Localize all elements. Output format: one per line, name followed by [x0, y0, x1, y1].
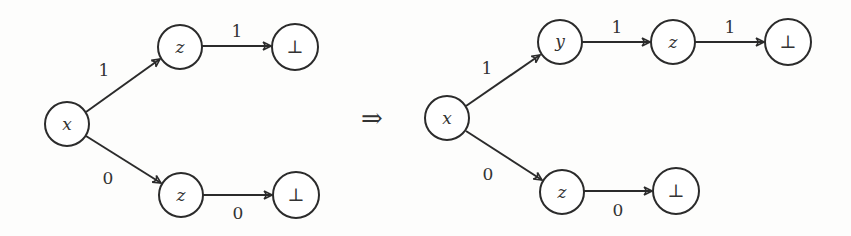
right-graph: 1 1 1 0 0 x y: [425, 17, 811, 220]
left-node-bottom-top: ⊥: [272, 24, 318, 70]
svg-text:⊥: ⊥: [780, 31, 797, 52]
svg-text:z: z: [557, 182, 568, 202]
left-edge-label-x-z1: 1: [99, 60, 110, 80]
left-edge-label-z1-b1: 1: [232, 21, 243, 41]
svg-text:⊥: ⊥: [668, 180, 685, 201]
svg-text:x: x: [442, 108, 452, 128]
implies-arrow-icon: ⇒: [361, 103, 383, 133]
left-graph: 1 1 0 0 x z ⊥: [45, 21, 319, 223]
svg-text:⊥: ⊥: [287, 36, 304, 57]
svg-text:x: x: [62, 114, 72, 134]
right-edge-label-z1-b1: 1: [725, 17, 736, 37]
diagram-canvas: 1 1 0 0 x z ⊥: [0, 0, 851, 236]
left-node-x: x: [45, 102, 89, 146]
left-edge-label-x-z0: 0: [103, 168, 114, 188]
right-edge-label-y-z1: 1: [612, 17, 623, 37]
right-node-bottom-bottom: ⊥: [653, 168, 699, 214]
left-node-bottom-bottom: ⊥: [273, 172, 319, 218]
right-node-x: x: [425, 96, 469, 140]
svg-text:y: y: [554, 31, 565, 51]
right-node-bottom-top: ⊥: [765, 19, 811, 65]
right-edge-label-z0-b0: 0: [613, 200, 624, 220]
svg-text:z: z: [175, 37, 186, 57]
svg-text:z: z: [176, 185, 187, 205]
right-edge-x-y: [466, 55, 540, 106]
svg-text:⊥: ⊥: [288, 184, 305, 205]
left-edge-x-z0: [86, 136, 161, 183]
right-node-z-top: z: [651, 20, 695, 64]
diagram-svg: 1 1 0 0 x z ⊥: [0, 0, 851, 236]
right-node-z-bottom: z: [540, 170, 584, 214]
svg-text:z: z: [668, 32, 679, 52]
right-edge-label-x-y: 1: [482, 58, 493, 78]
right-node-y: y: [538, 20, 582, 64]
right-edge-label-x-z0: 0: [483, 164, 494, 184]
left-edge-x-z1: [86, 59, 160, 112]
left-node-z-bottom: z: [159, 173, 203, 217]
right-edge-x-z0: [466, 131, 542, 180]
left-node-z-top: z: [158, 25, 202, 69]
left-edge-label-z0-b0: 0: [233, 203, 244, 223]
